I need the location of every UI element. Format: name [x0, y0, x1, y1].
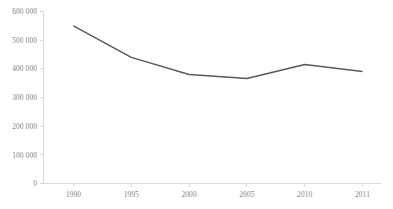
y-tick-label-100000: 100 000 [12, 151, 37, 160]
x-tick-label-2011: 2011 [355, 190, 370, 199]
x-tick-label-2010: 2010 [297, 190, 312, 199]
x-tick-label-2000: 2000 [182, 190, 197, 199]
y-tick-label-500000: 500 000 [12, 36, 37, 45]
chart-canvas: 600 000 500 000 400 000 300 000 200 000 … [0, 0, 393, 209]
y-tick-label-600000: 600 000 [12, 7, 37, 16]
x-tick-label-2005: 2005 [239, 190, 254, 199]
y-tick-label-200000: 200 000 [12, 122, 37, 131]
x-tick-label-1990: 1990 [66, 190, 81, 199]
chart-background [0, 0, 393, 209]
line-chart: 600 000 500 000 400 000 300 000 200 000 … [0, 0, 393, 209]
x-tick-label-1995: 1995 [124, 190, 139, 199]
y-tick-label-400000: 400 000 [12, 64, 37, 73]
y-tick-label-300000: 300 000 [12, 93, 37, 102]
y-tick-label-0: 0 [33, 179, 37, 188]
